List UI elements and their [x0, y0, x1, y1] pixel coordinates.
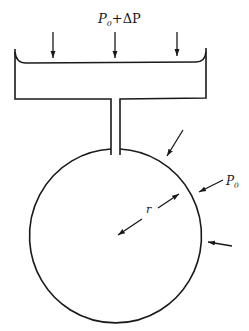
diagram-canvas: P0+ΔP r P0	[0, 0, 249, 331]
external-pressure-label: P0	[225, 174, 239, 190]
reservoir-pressure-arrows	[53, 32, 177, 58]
inward-arrow-icon	[167, 130, 183, 156]
external-pressure-arrows	[167, 130, 232, 246]
radius-arrow-outer	[158, 194, 179, 208]
inward-arrow-icon	[199, 180, 223, 192]
reservoir-wall-right	[120, 48, 206, 155]
bubble-circle	[29, 149, 201, 323]
radius-arrow-inner	[118, 219, 142, 235]
reservoir-wall-left	[15, 49, 111, 155]
reservoir-pressure-label: P0+ΔP	[97, 11, 141, 28]
inward-arrow-icon	[208, 242, 232, 246]
radius-label: r	[146, 203, 152, 216]
